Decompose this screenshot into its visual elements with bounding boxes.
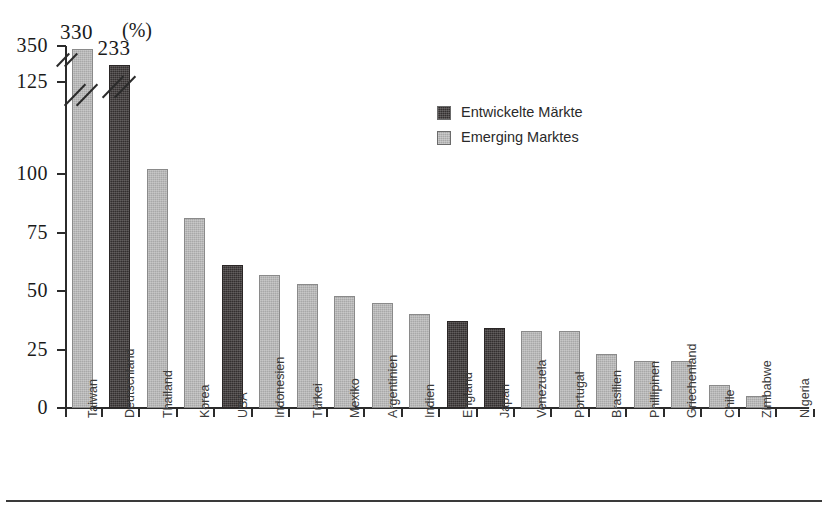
x-axis-tick-mark [775, 409, 777, 417]
bar-value-label-taiwan: 330 [60, 22, 93, 43]
legend-label-emerging: Emerging Marktes [461, 130, 579, 145]
y-axis-tick-label: 75 [0, 222, 48, 242]
legend-swatch-icon-developed [437, 106, 451, 120]
y-axis-tick-label: 25 [0, 339, 48, 359]
x-axis-label-deutschland: Deutschland [124, 349, 137, 419]
x-axis-label-argentinien: Argentinien [387, 355, 400, 418]
x-axis-tick-mark [813, 409, 815, 417]
y-axis-tick-mark [57, 45, 66, 47]
x-axis-label-england: England [462, 372, 475, 418]
x-axis-label-zimbabwe: Zimbabwe [761, 360, 774, 418]
x-axis-label-nigeria: Nigeria [799, 378, 812, 418]
x-axis-label-korea: Korea [199, 385, 212, 418]
x-axis-label-griechenland: Griechenland [686, 344, 699, 418]
x-axis-label-portugal: Portugal [574, 371, 587, 418]
x-axis-tick-mark [550, 409, 552, 417]
x-axis-tick-mark [326, 409, 328, 417]
footer-divider [6, 500, 822, 502]
x-axis-label-phillipinen: Phillipinen [649, 361, 662, 418]
x-axis-tick-mark [625, 409, 627, 417]
x-axis-label-brasilien: Brasilien [611, 370, 624, 418]
x-axis-tick-mark [476, 409, 478, 417]
y-axis-tick-mark [57, 290, 66, 292]
x-axis-label-trkei: Türkei [312, 383, 325, 418]
x-axis-label-venezuela: Venezuela [536, 360, 549, 418]
y-axis-tick-label: 350 [0, 35, 48, 55]
x-axis-label-taiwan: Taiwan [87, 379, 100, 418]
x-axis-tick-mark [213, 409, 215, 417]
bar-korea [184, 218, 205, 408]
x-axis-label-indonesien: Indonesien [274, 357, 287, 418]
chart-legend: Entwickelte Märkte Emerging Marktes [437, 100, 583, 150]
x-axis-label-japan: Japan [499, 384, 512, 418]
bar-usa [222, 265, 243, 408]
x-axis-label-usa: USA [237, 392, 250, 418]
x-axis-label-indien: Indien [424, 384, 437, 418]
bar-taiwan [72, 49, 93, 408]
x-axis-tick-mark [138, 409, 140, 417]
y-axis-tick-label: 100 [0, 163, 48, 183]
x-axis-label-thailand: Thailand [162, 370, 175, 418]
legend-label-developed: Entwickelte Märkte [461, 105, 583, 120]
x-axis-tick-mark [738, 409, 740, 417]
x-axis-tick-mark [251, 409, 253, 417]
x-axis-tick-mark [101, 409, 103, 417]
legend-item-developed: Entwickelte Märkte [437, 100, 583, 125]
y-axis-tick-mark [57, 232, 66, 234]
bar-value-label-deutschland: 233 [97, 38, 130, 59]
x-axis-tick-mark [288, 409, 290, 417]
legend-item-emerging: Emerging Marktes [437, 125, 583, 150]
y-axis-tick-mark [57, 349, 66, 351]
bar-chart: (%) 3501251007550250 330233 TaiwanDeutsc… [0, 0, 828, 518]
x-axis-label-mexiko: Mexiko [349, 378, 362, 418]
y-axis-tick-label: 50 [0, 280, 48, 300]
y-axis-tick-label: 0 [0, 397, 48, 417]
x-axis-tick-mark [700, 409, 702, 417]
x-axis-tick-mark [663, 409, 665, 417]
y-axis-tick-label: 125 [0, 71, 48, 91]
x-axis-tick-mark [363, 409, 365, 417]
x-axis-tick-mark [401, 409, 403, 417]
x-axis-tick-mark [438, 409, 440, 417]
y-axis-tick-mark [57, 173, 66, 175]
x-axis-tick-mark [65, 409, 67, 417]
x-axis-tick-mark [513, 409, 515, 417]
legend-swatch-icon-emerging [437, 131, 451, 145]
x-axis-tick-mark [176, 409, 178, 417]
x-axis-label-chile: Chile [724, 390, 737, 419]
x-axis-tick-mark [588, 409, 590, 417]
y-axis-tick-mark [57, 81, 66, 83]
